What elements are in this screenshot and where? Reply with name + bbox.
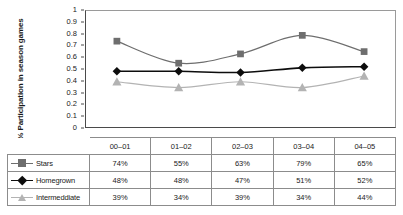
data-cell: 51% xyxy=(273,172,334,189)
data-point-marker xyxy=(298,64,307,72)
y-axis-tick-mark xyxy=(81,116,84,117)
data-table: 00–0101–0202–0303–0404–05Stars74%55%63%7… xyxy=(7,137,396,206)
y-axis-tick-label: 1 xyxy=(73,6,77,14)
data-cell: 74% xyxy=(90,155,151,172)
y-axis-tick-mark xyxy=(81,92,84,93)
data-cell: 52% xyxy=(334,172,395,189)
y-axis-tick-label: 0.3 xyxy=(67,89,77,97)
column-header-03–04: 03–04 xyxy=(273,138,334,155)
table-row: Homegrown48%48%47%51%52% xyxy=(8,172,396,189)
y-axis-tick-mark xyxy=(81,45,84,46)
table-row: Intermeddiate39%34%39%34%44% xyxy=(8,189,396,206)
y-axis-tick-mark xyxy=(81,57,84,58)
table-corner-cell xyxy=(8,138,90,155)
data-point-marker xyxy=(113,67,122,75)
legend-symbol-square xyxy=(18,159,26,167)
data-cell: 39% xyxy=(212,189,273,206)
data-cell: 39% xyxy=(90,189,151,206)
series-lines xyxy=(86,11,395,127)
data-point-marker xyxy=(175,60,182,67)
column-header-00–01: 00–01 xyxy=(90,138,151,155)
y-axis-tick-label: 0.9 xyxy=(67,18,77,26)
y-axis-tick-mark xyxy=(81,10,84,11)
y-axis-tick-label: 0.8 xyxy=(67,30,77,38)
series-homegrown xyxy=(113,62,369,76)
y-axis-tick-label: 0.2 xyxy=(67,101,77,109)
data-cell: 34% xyxy=(273,189,334,206)
data-cell: 44% xyxy=(334,189,395,206)
y-axis-title: % Participation in season games xyxy=(4,14,38,144)
y-axis-tick-mark xyxy=(81,21,84,22)
legend-symbol-triangle xyxy=(18,194,26,201)
data-cell: 63% xyxy=(212,155,273,172)
data-cell: 34% xyxy=(151,189,212,206)
plot-area xyxy=(85,10,396,128)
y-axis-tick-mark xyxy=(81,128,84,129)
data-point-marker xyxy=(360,62,369,70)
chart-figure: % Participation in season games 10.90.80… xyxy=(0,0,403,215)
data-cell: 48% xyxy=(151,172,212,189)
y-axis-tick-label: 0 xyxy=(73,124,77,132)
y-axis-tick-label: 0.7 xyxy=(67,42,77,50)
data-point-marker xyxy=(174,67,183,75)
legend-marker-icon xyxy=(11,158,33,168)
y-axis-tick-mark xyxy=(81,104,84,105)
data-cell: 55% xyxy=(151,155,212,172)
y-axis-tick-label: 0.5 xyxy=(67,65,77,73)
data-point-marker xyxy=(114,38,121,45)
y-axis-tick-label: 0.4 xyxy=(67,77,77,85)
series-stars xyxy=(114,32,368,67)
y-axis-tick-labels: 10.90.80.70.60.50.40.30.20.10 xyxy=(59,10,81,128)
legend-label: Stars xyxy=(36,159,53,168)
legend-marker-icon xyxy=(11,175,33,185)
data-point-marker xyxy=(361,48,368,55)
data-point-marker xyxy=(299,32,306,39)
data-cell: 65% xyxy=(334,155,395,172)
legend-entry-homegrown: Homegrown xyxy=(8,172,90,189)
legend-entry-stars: Stars xyxy=(8,155,90,172)
y-axis-tick-mark xyxy=(81,69,84,70)
data-point-marker xyxy=(360,71,369,79)
y-axis-tick-mark xyxy=(81,33,84,34)
y-axis-tick-label: 0.6 xyxy=(67,53,77,61)
y-axis-title-text: % Participation in season games xyxy=(16,18,26,139)
y-axis-tick-mark xyxy=(81,80,84,81)
table-row: Stars74%55%63%79%65% xyxy=(8,155,396,172)
table-header-row: 00–0101–0202–0303–0404–05 xyxy=(8,138,396,155)
legend-label: Homegrown xyxy=(36,176,75,185)
plot-container: 10.90.80.70.60.50.40.30.20.10 xyxy=(59,10,396,138)
data-cell: 48% xyxy=(90,172,151,189)
column-header-02–03: 02–03 xyxy=(212,138,273,155)
legend-marker-icon xyxy=(11,192,33,202)
series-line xyxy=(117,35,364,63)
data-cell: 47% xyxy=(212,172,273,189)
legend-label: Intermeddiate xyxy=(36,193,80,202)
data-cell: 79% xyxy=(273,155,334,172)
y-axis-tick-label: 0.1 xyxy=(67,112,77,120)
column-header-04–05: 04–05 xyxy=(334,138,395,155)
column-header-01–02: 01–02 xyxy=(151,138,212,155)
legend-entry-intermeddiate: Intermeddiate xyxy=(8,189,90,206)
data-point-marker xyxy=(112,77,121,85)
data-point-marker xyxy=(236,68,245,76)
data-point-marker xyxy=(237,51,244,58)
legend-symbol-diamond xyxy=(18,176,27,185)
